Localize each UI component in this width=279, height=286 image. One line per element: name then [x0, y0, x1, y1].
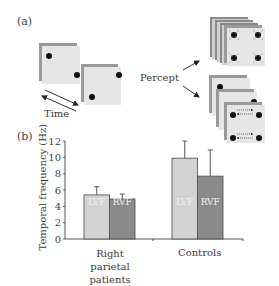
y-tick-label: 8	[55, 168, 61, 179]
category-label-right-parietal: Right parietal patients	[80, 247, 140, 286]
y-tick-label: 4	[55, 201, 61, 212]
y-tick-label: 10	[48, 152, 61, 163]
y-axis-label: Temporal frequency (Hz)	[37, 131, 48, 251]
bar-rvf	[198, 176, 224, 239]
bar-label: LVF	[176, 197, 194, 207]
y-tick-label: 2	[55, 217, 61, 228]
bar-label: RVF	[201, 197, 220, 207]
bar-label: RVF	[113, 197, 132, 207]
bar-label: LVF	[88, 197, 106, 207]
y-tick-label: 0	[55, 234, 61, 245]
y-tick-label: 6	[55, 185, 61, 196]
category-label-controls: Controls	[178, 247, 218, 258]
category-label-text: Right parietal patients	[89, 248, 130, 285]
y-tick-label: 12	[48, 136, 61, 147]
